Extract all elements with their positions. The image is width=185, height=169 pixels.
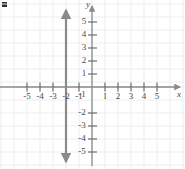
y-tick-label-3: 3 <box>82 42 87 52</box>
x-tick-label-neg4: -4 <box>36 91 44 101</box>
y-tick-label-neg3: -3 <box>78 120 86 130</box>
y-tick-label-neg1: -1 <box>78 89 86 99</box>
x-tick-label-neg3: -3 <box>49 91 57 101</box>
y-tick-label-neg5: -5 <box>78 146 86 156</box>
y-axis-label: y <box>85 0 90 9</box>
y-tick-label-2: 2 <box>82 55 87 65</box>
x-axis-label: x <box>176 89 181 99</box>
x-tick-label-1: 1 <box>103 91 108 101</box>
y-tick-label-1: 1 <box>82 68 87 78</box>
x-tick-label-neg5: -5 <box>23 91 31 101</box>
x-tick-label-neg2: -2 <box>62 91 70 101</box>
x-tick-label-4: 4 <box>142 91 147 101</box>
x-tick-label-2: 2 <box>116 91 121 101</box>
x-tick-label-5: 5 <box>155 91 160 101</box>
y-tick-label-5: 5 <box>82 16 87 26</box>
y-tick-label-neg2: -2 <box>78 107 86 117</box>
y-tick-label-neg4: -4 <box>78 133 86 143</box>
graph-canvas: -5 -4 -3 -2 -1 1 2 3 4 5 5 4 3 2 1 -1 -2… <box>0 0 185 169</box>
coordinate-plane-figure: -5 -4 -3 -2 -1 1 2 3 4 5 5 4 3 2 1 -1 -2… <box>0 0 185 169</box>
y-tick-label-4: 4 <box>82 29 87 39</box>
x-tick-label-3: 3 <box>129 91 134 101</box>
